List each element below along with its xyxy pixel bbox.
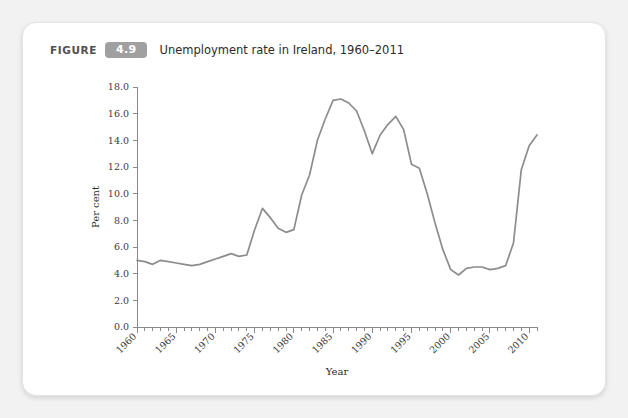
x-axis-title: Year	[325, 366, 349, 377]
unemployment-rate-line	[137, 99, 537, 275]
x-tick-label: 1965	[153, 331, 178, 356]
unemployment-line-chart: 0.02.04.06.08.010.012.014.016.018.0 1960…	[85, 75, 545, 377]
x-tick-label: 1970	[192, 331, 217, 356]
x-tick-label: 1980	[270, 331, 295, 356]
y-tick-label: 6.0	[114, 241, 129, 252]
y-tick-label: 12.0	[108, 161, 129, 172]
y-axis-ticks	[133, 87, 137, 327]
y-axis-tick-labels: 0.02.04.06.08.010.012.014.016.018.0	[108, 81, 129, 332]
y-tick-label: 2.0	[114, 295, 129, 306]
y-tick-label: 10.0	[108, 188, 129, 199]
x-tick-label: 2000	[427, 331, 452, 356]
x-tick-label: 1975	[231, 331, 256, 356]
figure-number-badge: 4.9	[105, 42, 147, 58]
x-axis-ticks	[137, 327, 537, 333]
figure-caption: FIGURE 4.9 Unemployment rate in Ireland,…	[50, 42, 404, 58]
figure-title: Unemployment rate in Ireland, 1960–2011	[159, 43, 404, 57]
y-tick-label: 8.0	[114, 215, 129, 226]
y-tick-label: 4.0	[114, 268, 129, 279]
x-tick-label: 2010	[506, 331, 531, 356]
y-tick-label: 16.0	[108, 108, 129, 119]
x-tick-label: 1960	[114, 331, 139, 356]
figure-label: FIGURE	[50, 44, 97, 56]
figure-card: FIGURE 4.9 Unemployment rate in Ireland,…	[22, 22, 606, 396]
y-tick-label: 18.0	[108, 81, 129, 92]
x-axis-tick-labels: 1960196519701975198019851990199520002005…	[114, 331, 531, 356]
x-tick-label: 2005	[466, 331, 491, 356]
x-tick-label: 1990	[349, 331, 374, 356]
y-tick-label: 14.0	[108, 135, 129, 146]
x-tick-label: 1995	[388, 331, 413, 356]
chart-plot-area: 0.02.04.06.08.010.012.014.016.018.0 1960…	[85, 75, 545, 377]
y-axis-title: Per cent	[90, 186, 101, 228]
y-tick-label: 0.0	[114, 321, 129, 332]
x-tick-label: 1985	[310, 331, 335, 356]
